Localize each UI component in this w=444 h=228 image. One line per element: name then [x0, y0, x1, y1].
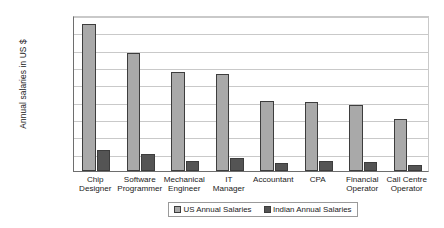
bar-us-annual-salaries: [349, 105, 363, 171]
bar-indian-annual-salaries: [275, 163, 289, 171]
bar-indian-annual-salaries: [141, 154, 155, 171]
bar-group: [341, 17, 386, 171]
bar-group: [208, 17, 253, 171]
bar-us-annual-salaries: [127, 53, 141, 171]
x-axis-labels: ChipDesignerSoftwareProgrammerMechanical…: [73, 175, 429, 199]
bar-us-annual-salaries: [216, 74, 230, 171]
bar-us-annual-salaries: [260, 101, 274, 171]
x-axis-label: Call CentreOperator: [379, 175, 436, 194]
bar-indian-annual-salaries: [186, 161, 200, 171]
bar-indian-annual-salaries: [319, 161, 333, 171]
bar-us-annual-salaries: [171, 72, 185, 171]
legend-swatch-icon: [174, 206, 181, 213]
bar-group: [386, 17, 431, 171]
legend-swatch-icon: [264, 206, 271, 213]
bar-indian-annual-salaries: [230, 158, 244, 171]
legend-label: Indian Annual Salaries: [273, 205, 352, 214]
bar-group: [119, 17, 164, 171]
chart-legend: US Annual SalariesIndian Annual Salaries: [168, 202, 358, 217]
bar-us-annual-salaries: [394, 119, 408, 171]
x-axis-label-line: Call Centre: [379, 175, 436, 184]
x-axis-label-line: Operator: [379, 184, 436, 193]
x-axis-label-line: Manager: [201, 184, 258, 193]
bar-us-annual-salaries: [305, 102, 319, 171]
legend-item[interactable]: US Annual Salaries: [174, 205, 252, 214]
bar-group: [163, 17, 208, 171]
bar-group: [252, 17, 297, 171]
bar-indian-annual-salaries: [364, 162, 378, 171]
salary-comparison-bar-chart: Annual salaries in US $ $90,000$80,000$7…: [0, 0, 444, 228]
bar-indian-annual-salaries: [408, 165, 422, 171]
legend-item[interactable]: Indian Annual Salaries: [264, 205, 352, 214]
y-axis-title: Annual salaries in US $: [18, 0, 28, 169]
bar-indian-annual-salaries: [97, 150, 111, 171]
bar-us-annual-salaries: [82, 24, 96, 171]
legend-label: US Annual Salaries: [184, 205, 252, 214]
bar-group: [297, 17, 342, 171]
plot-area: [73, 16, 429, 172]
bar-group: [74, 17, 119, 171]
